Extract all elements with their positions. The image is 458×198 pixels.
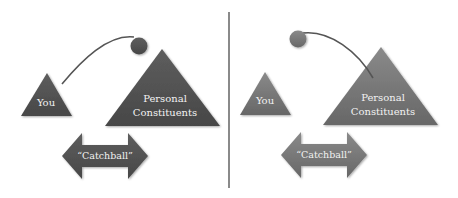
throw-trajectory-curve (303, 33, 373, 78)
constituents-label-line2: Constituents (133, 107, 197, 118)
left-panel: You Personal Constituents “Catchball” (21, 37, 220, 179)
ball-icon (290, 31, 307, 48)
ball-icon (131, 38, 148, 55)
you-label: You (36, 97, 56, 108)
catchball-label: “Catchball” (296, 149, 352, 160)
constituents-label-line1: Personal (143, 93, 187, 104)
right-panel: You Personal Constituents “Catchball” (240, 31, 438, 179)
constituents-label-line1: Personal (361, 92, 405, 103)
you-triangle (240, 72, 291, 115)
you-triangle (21, 73, 72, 116)
constituents-label-line2: Constituents (351, 106, 415, 117)
catchball-diagram: You Personal Constituents “Catchball” Yo… (0, 0, 458, 198)
catchball-label: “Catchball” (77, 150, 133, 161)
you-label: You (255, 95, 275, 106)
throw-trajectory-curve (62, 37, 134, 84)
